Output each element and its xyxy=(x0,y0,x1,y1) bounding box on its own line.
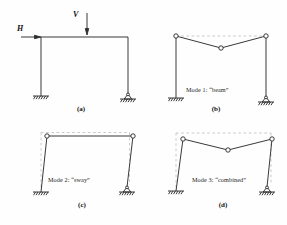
panel-a-caption: (a) xyxy=(77,105,86,113)
panel-d: Mode 3: “combined” (d) xyxy=(168,133,275,209)
mode-3-label: Mode 3: “combined” xyxy=(192,176,246,183)
mode-1-label: Mode 1: “beam” xyxy=(186,86,229,93)
hinge-circle xyxy=(264,34,268,38)
fixed-support-icon xyxy=(33,192,49,195)
load-label-h: H xyxy=(16,24,24,33)
load-label-v: V xyxy=(73,10,79,19)
figure-canvas: H V (a) Mode 1: “beam” (b) xyxy=(0,0,287,225)
collapse-mechanisms-figure: H V (a) Mode 1: “beam” (b) xyxy=(0,0,287,225)
left-column-swayed xyxy=(41,136,47,192)
panel-a: H V (a) xyxy=(16,10,136,113)
pinned-support-icon xyxy=(120,93,136,102)
hinge-circle xyxy=(174,34,178,38)
pinned-support-icon xyxy=(259,186,275,195)
frame-outline xyxy=(41,37,128,96)
panel-b: Mode 1: “beam” (b) xyxy=(168,34,274,113)
hinge-circle xyxy=(181,137,185,141)
panel-c-mechanism-outline xyxy=(33,134,135,195)
fixed-support-icon xyxy=(33,96,49,99)
panel-b-mechanism-outline xyxy=(168,34,274,105)
fixed-support-icon xyxy=(168,191,184,194)
fixed-support-icon xyxy=(168,98,184,101)
v-load-arrowhead-icon xyxy=(85,29,88,36)
left-column-swayed xyxy=(176,139,183,191)
panel-d-caption: (d) xyxy=(219,201,228,209)
mode-2-label: Mode 2: “sway” xyxy=(48,176,90,183)
h-load-arrowhead-icon xyxy=(35,35,42,38)
panel-c: Mode 2: “sway” (c) xyxy=(33,133,135,210)
panel-d-mechanism-outline xyxy=(168,137,275,195)
panel-a-frame-outline xyxy=(21,13,136,102)
hinge-circle xyxy=(131,134,135,138)
hinge-circle xyxy=(270,137,274,141)
hinge-circle xyxy=(45,134,49,138)
panel-b-caption: (b) xyxy=(212,105,221,113)
pinned-support-icon xyxy=(119,186,135,195)
hinge-circle xyxy=(226,148,230,152)
pinned-support-icon xyxy=(258,96,274,105)
right-column-swayed xyxy=(127,136,133,187)
hinge-circle xyxy=(219,46,223,50)
panel-c-caption: (c) xyxy=(78,201,86,209)
